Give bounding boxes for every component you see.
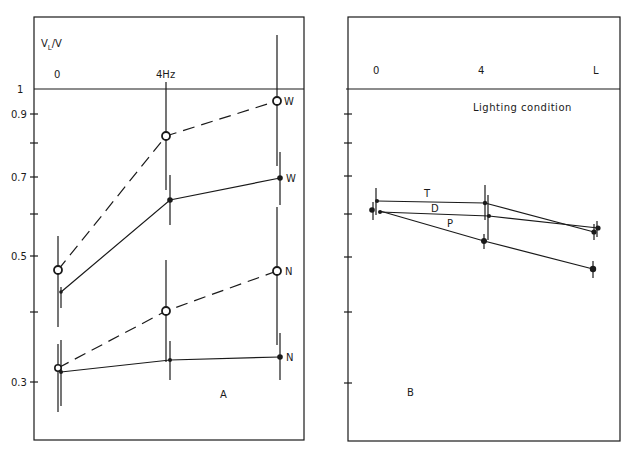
filled-circle-marker <box>590 266 596 272</box>
panel-b-frame <box>348 17 620 441</box>
panel-b <box>344 17 620 441</box>
open-circle-marker <box>162 307 170 315</box>
series-label-w-open: W <box>284 96 294 107</box>
filled-circle-marker <box>487 214 491 218</box>
series-label-n-filled: N <box>286 352 293 363</box>
panel-b-error-bars <box>373 185 597 278</box>
panel-label-a: A <box>220 389 227 400</box>
y-tick-label-0.9: 0.9 <box>11 109 27 120</box>
filled-circle-marker <box>369 207 375 213</box>
filled-circle-marker <box>595 225 600 230</box>
x-category-0: 0 <box>373 65 379 76</box>
x-category-l: L <box>593 65 599 76</box>
open-circle-marker <box>162 132 170 140</box>
series-label-t: T <box>423 188 431 199</box>
open-circle-marker <box>54 266 62 274</box>
series-label-w-filled: W <box>286 173 296 184</box>
y-tick-label-0.7: 0.7 <box>11 172 27 183</box>
figure: VL/V 0 4Hz 1 0.9 0.7 0.5 0.3 W W N N A <box>0 0 631 454</box>
x-category-4: 4 <box>478 65 484 76</box>
series-label-d: D <box>431 203 439 214</box>
filled-circle-marker <box>277 175 283 181</box>
filled-circle-marker <box>483 201 487 205</box>
panel-b-labels: 0 4 L Lighting condition T D P B <box>373 65 599 398</box>
panel-a-error-bars <box>58 35 280 412</box>
y-tick-label-1: 1 <box>17 84 23 95</box>
panel-a-labels: VL/V 0 4Hz 1 0.9 0.7 0.5 0.3 W W N N A <box>11 38 296 400</box>
panel-a <box>30 17 304 440</box>
y-axis-label: VL/V <box>41 38 62 52</box>
filled-circle-marker <box>591 229 596 234</box>
series-n-open-line <box>58 271 277 368</box>
filled-circle-marker <box>168 358 172 362</box>
open-circle-marker <box>273 97 281 105</box>
y-tick-label-0.5: 0.5 <box>11 251 27 262</box>
filled-circle-marker <box>59 370 63 374</box>
x-category-0: 0 <box>54 69 60 80</box>
filled-circle-marker <box>167 197 173 203</box>
series-label-n-open: N <box>285 266 292 277</box>
panel-a-markers <box>54 97 283 374</box>
filled-circle-marker <box>375 199 379 203</box>
x-category-4hz: 4Hz <box>156 69 175 80</box>
series-label-p: P <box>447 218 453 229</box>
y-tick-label-0.3: 0.3 <box>11 377 27 388</box>
open-circle-marker <box>273 267 281 275</box>
x-axis-title: Lighting condition <box>473 102 572 113</box>
filled-circle-marker <box>59 290 63 294</box>
filled-circle-marker <box>481 238 487 244</box>
filled-circle-marker <box>277 354 283 360</box>
panel-label-b: B <box>407 387 414 398</box>
filled-circle-marker <box>378 210 382 214</box>
panel-a-frame <box>34 17 304 440</box>
